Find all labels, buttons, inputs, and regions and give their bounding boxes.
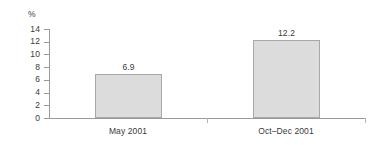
y-axis-tick-label-text: 4 [0, 88, 40, 97]
y-axis-tick-label: 4 [0, 88, 40, 97]
y-axis-tick-mark [44, 118, 49, 119]
y-axis-tick-mark [44, 80, 49, 81]
y-axis-tick-label: 2 [0, 101, 40, 110]
bar [95, 74, 162, 118]
y-axis-tick-label: 8 [0, 63, 40, 72]
category-separator-tick [207, 118, 208, 123]
y-axis-tick-label-text: 6 [0, 75, 40, 84]
bar-value-label: 6.9 [75, 62, 182, 72]
y-axis-tick-label: 6 [0, 75, 40, 84]
y-axis-tick-label-text: 10 [0, 50, 40, 59]
x-axis-category-label: Oct–Dec 2001 [207, 126, 365, 136]
y-axis-tick-mark [44, 93, 49, 94]
y-axis-unit-label: % [28, 9, 36, 19]
y-axis-tick-label-text: 2 [0, 101, 40, 110]
bar [253, 40, 320, 118]
y-axis-tick-mark [44, 42, 49, 43]
y-axis-tick-label-text: 14 [0, 25, 40, 34]
y-axis-tick-label-text: 8 [0, 63, 40, 72]
y-axis-line [49, 29, 50, 119]
y-axis-tick-label: 14 [0, 25, 40, 34]
bar-chart: % 02468101214 6.9May 200112.2Oct–Dec 200… [0, 0, 385, 145]
x-axis-category-label: May 2001 [49, 126, 207, 136]
y-axis-tick-label: 10 [0, 50, 40, 59]
y-axis-tick-label-text: 12 [0, 37, 40, 46]
y-axis-tick-label: 0 [0, 114, 40, 123]
category-separator-tick [365, 118, 366, 123]
bar-value-label: 12.2 [233, 28, 340, 38]
y-axis-tick-label: 12 [0, 37, 40, 46]
y-axis-tick-mark [44, 105, 49, 106]
y-axis-tick-mark [44, 54, 49, 55]
y-axis-tick-label-text: 0 [0, 114, 40, 123]
y-axis-tick-mark [44, 29, 49, 30]
y-axis-tick-mark [44, 67, 49, 68]
